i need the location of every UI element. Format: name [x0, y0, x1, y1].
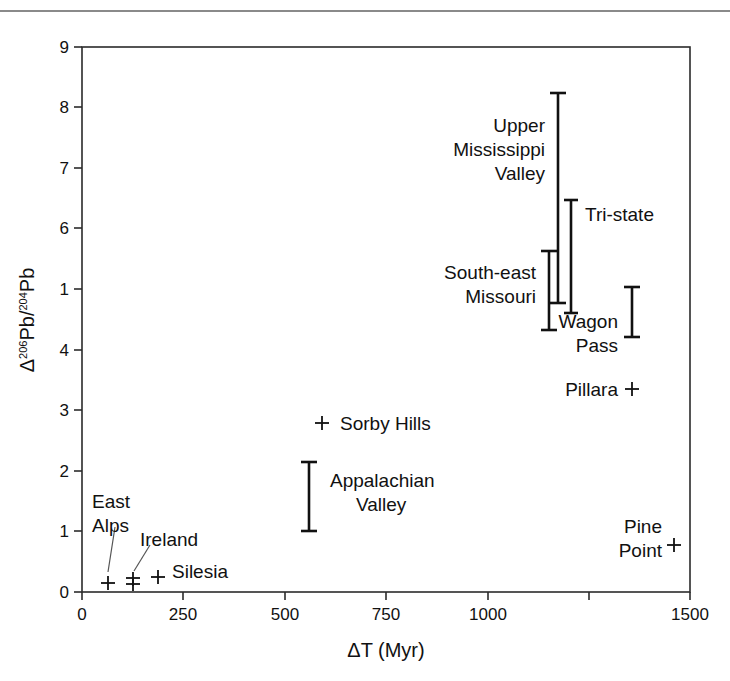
label-ireland: Ireland	[140, 529, 198, 550]
label-east-alps-line2: Alps	[92, 515, 129, 536]
range-bar-appalachian-valley	[301, 462, 317, 531]
y-axis-title-sup-204: 204	[17, 292, 29, 310]
x-axis-tick-labels: 0 250 500 750 1000 1500	[77, 605, 709, 624]
x-tick-label: 1000	[469, 605, 507, 624]
range-bar-south-east-missouri	[541, 251, 557, 330]
label-wagon-pass-line1: Wagon	[559, 311, 619, 332]
y-tick-label: 2	[60, 462, 69, 481]
marker-silesia	[151, 570, 165, 584]
x-tick-label: 750	[372, 605, 400, 624]
y-tick-label: 9	[60, 38, 69, 57]
y-tick-label: 0	[60, 583, 69, 602]
label-appalachian-valley-line1: Appalachian	[330, 470, 435, 491]
label-wagon-pass-line2: Pass	[576, 335, 618, 356]
label-pine-point-line2: Point	[619, 540, 663, 561]
label-east-alps-line1: East	[92, 491, 131, 512]
label-south-east-missouri-line2: Missouri	[465, 286, 536, 307]
y-tick-label: 1	[60, 280, 69, 299]
y-axis-title-tail: Pb	[16, 268, 38, 292]
y-axis-title-mid: Pb/	[16, 310, 38, 340]
figure-container: 9 8 7 6 1 4 3 2 1 0 0 250 500 750 1000	[0, 0, 730, 681]
x-tick-label: 500	[271, 605, 299, 624]
x-axis-ticks	[82, 592, 690, 600]
marker-pine-point	[667, 538, 681, 552]
label-upper-mississippi-valley-line2: Mississippi	[453, 139, 545, 160]
y-axis-tick-labels: 9 8 7 6 1 4 3 2 1 0	[60, 38, 69, 602]
y-axis-title-sup-206: 206	[17, 341, 29, 359]
x-tick-label: 250	[169, 605, 197, 624]
y-tick-label: 4	[60, 341, 69, 360]
marker-sorby-hills	[315, 416, 329, 430]
label-sorby-hills: Sorby Hills	[340, 413, 431, 434]
scatter-chart: 9 8 7 6 1 4 3 2 1 0 0 250 500 750 1000	[0, 0, 730, 681]
annotation-layer: Upper Mississippi Valley Tri-state South…	[92, 115, 663, 582]
y-tick-label: 8	[60, 98, 69, 117]
y-axis-title: Δ206Pb/204Pb	[16, 268, 38, 373]
label-pillara: Pillara	[565, 379, 618, 400]
label-upper-mississippi-valley-line3: Valley	[495, 163, 546, 184]
y-tick-label: 1	[60, 522, 69, 541]
marker-east-alps	[101, 576, 115, 590]
x-axis-title: ΔT (Myr)	[347, 639, 424, 661]
label-south-east-missouri-line1: South-east	[444, 262, 537, 283]
range-bar-upper-mississippi-valley	[550, 93, 566, 303]
label-tri-state: Tri-state	[585, 204, 654, 225]
y-tick-label: 3	[60, 401, 69, 420]
y-tick-label: 6	[60, 219, 69, 238]
range-bar-wagon-pass	[624, 287, 640, 337]
y-axis-ticks	[74, 47, 82, 592]
marker-pillara	[625, 382, 639, 396]
y-tick-label: 7	[60, 159, 69, 178]
x-tick-label: 0	[77, 605, 86, 624]
label-silesia: Silesia	[172, 561, 228, 582]
range-bar-tri-state	[564, 200, 578, 313]
label-pine-point-line1: Pine	[624, 516, 662, 537]
label-appalachian-valley-line2: Valley	[356, 494, 407, 515]
y-axis-title-delta: Δ	[16, 359, 38, 372]
x-tick-label: 1500	[671, 605, 709, 624]
label-upper-mississippi-valley-line1: Upper	[493, 115, 545, 136]
